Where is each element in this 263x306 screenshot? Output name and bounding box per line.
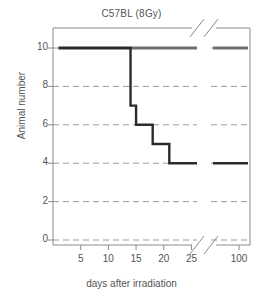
axis-ticks	[48, 48, 239, 250]
survival-chart-figure: C57BL (8Gy) Animal number days after irr…	[0, 0, 263, 306]
axis-break-marks	[190, 19, 218, 254]
data-series	[59, 48, 248, 163]
plot-canvas	[0, 0, 263, 306]
